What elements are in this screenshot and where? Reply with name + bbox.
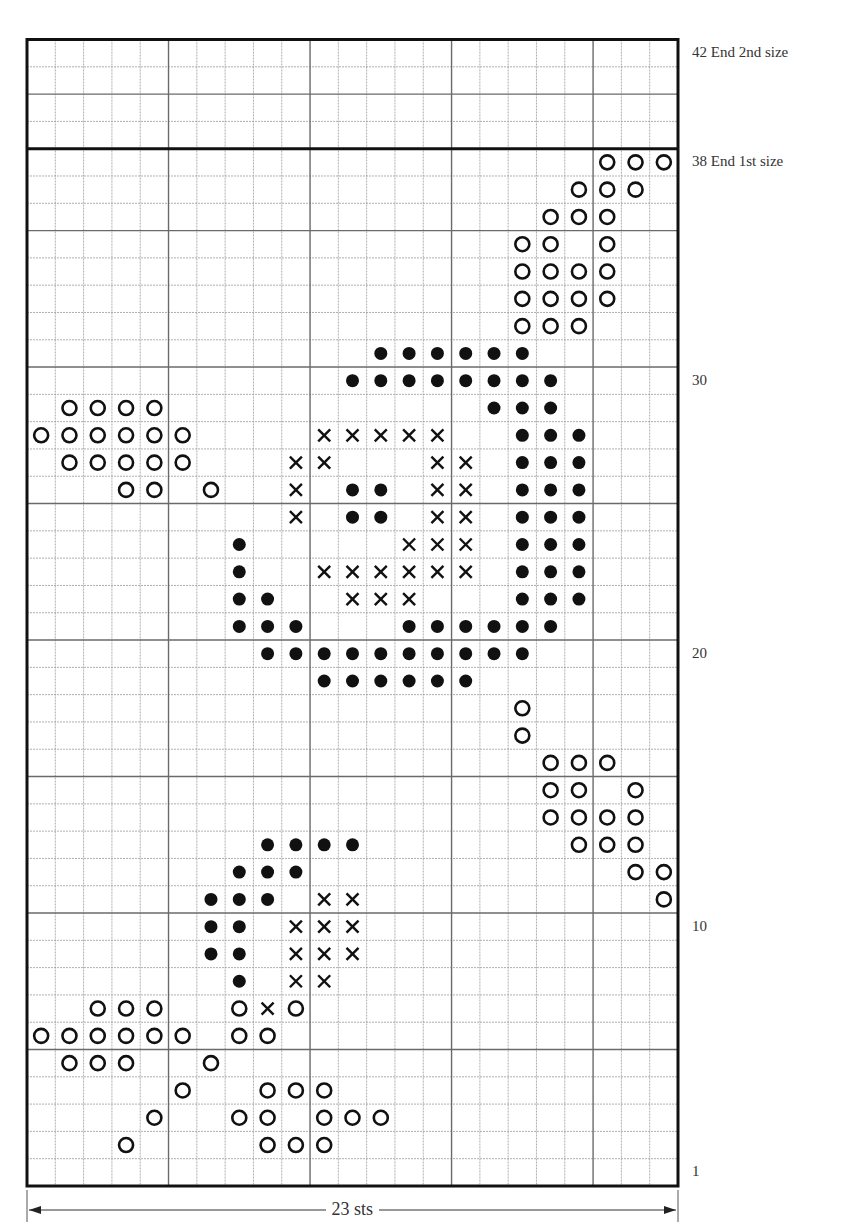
- open-circle-icon: [629, 783, 643, 797]
- cross-icon: [318, 566, 330, 578]
- cross-icon: [318, 921, 330, 933]
- open-circle-icon: [600, 210, 614, 224]
- cross-icon: [403, 429, 415, 441]
- filled-dot-icon: [346, 483, 359, 496]
- cross-icon: [403, 539, 415, 551]
- filled-dot-icon: [204, 947, 217, 960]
- filled-dot-icon: [261, 893, 274, 906]
- filled-dot-icon: [459, 374, 472, 387]
- filled-dot-icon: [261, 647, 274, 660]
- cross-icon: [347, 893, 359, 905]
- open-circle-icon: [62, 401, 76, 415]
- filled-dot-icon: [233, 975, 246, 988]
- open-circle-icon: [147, 1111, 161, 1125]
- filled-dot-icon: [233, 593, 246, 606]
- cross-icon: [431, 539, 443, 551]
- open-circle-icon: [600, 756, 614, 770]
- filled-dot-icon: [318, 838, 331, 851]
- filled-dot-icon: [572, 511, 585, 524]
- open-circle-icon: [629, 810, 643, 824]
- arrow-left-icon: [29, 1206, 41, 1214]
- open-circle-icon: [176, 1029, 190, 1043]
- open-circle-icon: [261, 1029, 275, 1043]
- open-circle-icon: [34, 428, 48, 442]
- filled-dot-icon: [233, 538, 246, 551]
- open-circle-icon: [91, 1056, 105, 1070]
- filled-dot-icon: [403, 647, 416, 660]
- open-circle-icon: [119, 1029, 133, 1043]
- filled-dot-icon: [516, 538, 529, 551]
- open-circle-icon: [515, 729, 529, 743]
- cross-icon: [460, 539, 472, 551]
- open-circle-icon: [119, 428, 133, 442]
- cross-icon: [318, 429, 330, 441]
- row-label: 38 End 1st size: [692, 154, 783, 169]
- cross-icon: [347, 593, 359, 605]
- cross-icon: [460, 457, 472, 469]
- row-label: 1: [692, 1164, 700, 1179]
- open-circle-icon: [544, 756, 558, 770]
- open-circle-icon: [515, 237, 529, 251]
- filled-dot-icon: [431, 374, 444, 387]
- cross-icon: [460, 566, 472, 578]
- open-circle-icon: [572, 265, 586, 279]
- filled-dot-icon: [374, 483, 387, 496]
- width-label: 23 sts: [326, 1200, 380, 1218]
- filled-dot-icon: [516, 511, 529, 524]
- open-circle-icon: [572, 783, 586, 797]
- open-circle-icon: [657, 892, 671, 906]
- cross-icon: [431, 566, 443, 578]
- cross-icon: [318, 948, 330, 960]
- open-circle-icon: [119, 1056, 133, 1070]
- filled-dot-icon: [572, 565, 585, 578]
- filled-dot-icon: [488, 402, 501, 415]
- open-circle-icon: [515, 265, 529, 279]
- filled-dot-icon: [261, 620, 274, 633]
- open-circle-icon: [657, 865, 671, 879]
- open-circle-icon: [62, 1029, 76, 1043]
- filled-dot-icon: [431, 674, 444, 687]
- open-circle-icon: [289, 1138, 303, 1152]
- cross-icon: [431, 429, 443, 441]
- cross-icon: [375, 429, 387, 441]
- filled-dot-icon: [289, 647, 302, 660]
- filled-dot-icon: [261, 866, 274, 879]
- filled-dot-icon: [318, 647, 331, 660]
- open-circle-icon: [204, 483, 218, 497]
- cross-icon: [375, 593, 387, 605]
- cross-icon: [318, 893, 330, 905]
- open-circle-icon: [119, 483, 133, 497]
- filled-dot-icon: [516, 402, 529, 415]
- filled-dot-icon: [403, 347, 416, 360]
- open-circle-icon: [204, 1056, 218, 1070]
- cross-icon: [460, 511, 472, 523]
- filled-dot-icon: [516, 456, 529, 469]
- cross-icon: [347, 921, 359, 933]
- filled-dot-icon: [544, 402, 557, 415]
- open-circle-icon: [544, 265, 558, 279]
- open-circle-icon: [232, 1002, 246, 1016]
- filled-dot-icon: [318, 674, 331, 687]
- filled-dot-icon: [233, 920, 246, 933]
- open-circle-icon: [91, 401, 105, 415]
- filled-dot-icon: [572, 593, 585, 606]
- cross-icon: [403, 566, 415, 578]
- cross-icon: [375, 566, 387, 578]
- open-circle-icon: [572, 756, 586, 770]
- open-circle-icon: [91, 1029, 105, 1043]
- open-circle-icon: [91, 1002, 105, 1016]
- cross-icon: [262, 1003, 274, 1015]
- filled-dot-icon: [346, 674, 359, 687]
- filled-dot-icon: [544, 593, 557, 606]
- filled-dot-icon: [261, 593, 274, 606]
- cross-icon: [347, 566, 359, 578]
- open-circle-icon: [147, 428, 161, 442]
- open-circle-icon: [176, 456, 190, 470]
- open-circle-icon: [147, 483, 161, 497]
- open-circle-icon: [657, 155, 671, 169]
- cross-icon: [290, 975, 302, 987]
- filled-dot-icon: [374, 347, 387, 360]
- filled-dot-icon: [544, 511, 557, 524]
- cross-icon: [403, 593, 415, 605]
- open-circle-icon: [62, 428, 76, 442]
